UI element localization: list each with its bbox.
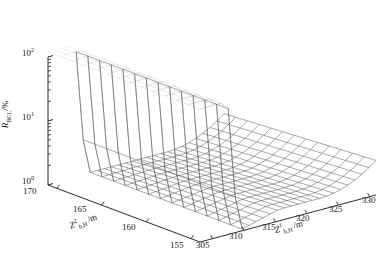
surface-mesh	[48, 46, 376, 229]
ztick-label-1: 101	[22, 113, 34, 122]
xtick-label-305: 305	[196, 241, 210, 250]
xtick-label-330: 330	[362, 196, 376, 205]
ytick-label-155: 155	[170, 241, 184, 250]
ztick-label-0: 100	[22, 177, 34, 186]
ytick-label-160: 160	[122, 223, 136, 232]
ytick-label-170: 170	[23, 187, 37, 196]
xtick-label-325: 325	[329, 205, 343, 214]
xtick-label-310: 310	[229, 232, 243, 241]
surface-plot-canvas	[0, 0, 391, 258]
figure-3d-surface-plot: 102 101 100 RBCL/% 170 165 160 155 Z2b,H…	[0, 0, 391, 258]
zaxis-title: RBCL/%	[1, 101, 10, 129]
ztick-label-2: 102	[22, 49, 34, 58]
ytick-label-165: 165	[73, 205, 87, 214]
